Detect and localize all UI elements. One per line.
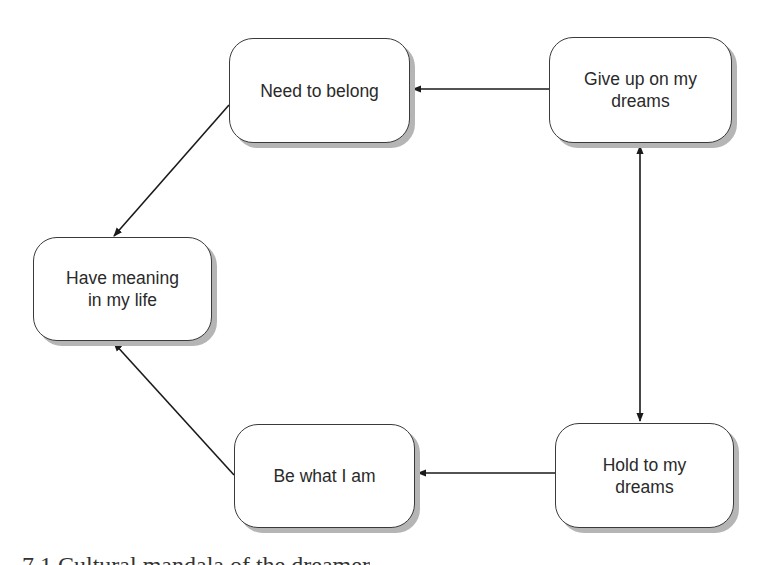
node-give-up-on-my-dreams: Give up on my dreams <box>549 37 732 143</box>
node-have-meaning-in-my-life: Have meaning in my life <box>33 237 212 341</box>
node-label: Hold to my dreams <box>603 454 687 498</box>
node-be-what-i-am: Be what I am <box>234 424 415 528</box>
node-hold-to-my-dreams: Hold to my dreams <box>555 423 734 528</box>
node-need-to-belong: Need to belong <box>229 38 410 143</box>
node-label: Be what I am <box>273 465 375 487</box>
figure-caption: 7.1 Cultural mandala of the dreamer <box>22 550 370 565</box>
arrow-belong-to-meaning <box>114 105 229 236</box>
node-label: Have meaning in my life <box>66 267 179 311</box>
node-label: Need to belong <box>260 80 379 102</box>
arrow-bewhat-to-meaning <box>114 343 234 475</box>
node-label: Give up on my dreams <box>584 68 697 112</box>
